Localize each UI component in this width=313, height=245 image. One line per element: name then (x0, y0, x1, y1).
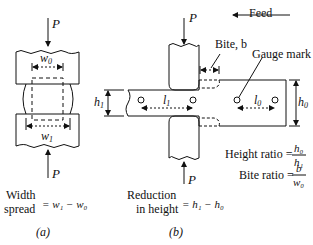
l1-label: l1 (163, 93, 170, 108)
reduction-caption-2: in height (136, 202, 179, 216)
bite-dashed-bottom (199, 118, 219, 126)
reduction-formula: = h₁ − h₀ (182, 198, 224, 210)
panel-b-label: (b) (169, 225, 183, 239)
bite-dashed-top (199, 80, 219, 88)
force-label-top: P (51, 16, 60, 31)
force-label-bottom: P (51, 166, 60, 181)
width-spread-formula: = w₁ − w₀ (42, 198, 88, 210)
bulge-left (23, 84, 26, 114)
bulge-right (70, 84, 73, 114)
gauge-mark-icon (234, 97, 240, 103)
height-ratio-label: Height ratio = (225, 147, 293, 161)
bite-ratio-label: Bite ratio = (239, 168, 294, 182)
force-label-bottom: P (187, 172, 196, 187)
bite-ratio-denominator: w₀ (293, 176, 304, 188)
gauge-mark-icon (272, 97, 278, 103)
reduction-caption-1: Reduction (127, 188, 176, 202)
gauge-mark-leader (239, 58, 262, 97)
gauge-mark-icon (190, 97, 196, 103)
bite-label: Bite, b (215, 37, 247, 51)
width-spread-caption-2: spread (4, 202, 35, 216)
top-die (169, 44, 199, 91)
feed-label: Feed (249, 6, 272, 20)
h1-label: h1 (94, 95, 104, 110)
forging-diagram: P w0 w1 P Width spread = w₁ − w₀ (a) (0, 0, 313, 245)
panel-a-label: (a) (36, 225, 50, 239)
workpiece-break (126, 90, 130, 116)
l0-label: l0 (254, 93, 261, 108)
panel-a (16, 18, 79, 178)
width-spread-caption-1: Width (6, 188, 36, 202)
gauge-mark-label: Gauge mark (252, 47, 311, 61)
force-label-top: P (188, 10, 197, 25)
height-ratio-numerator: h₀ (294, 142, 304, 154)
gauge-mark-icon (138, 97, 144, 103)
bite-ratio-numerator: b (296, 162, 302, 174)
h0-label: h0 (298, 95, 308, 110)
w1-label: w1 (41, 129, 53, 144)
bite-leader (211, 54, 220, 68)
workpiece (128, 80, 286, 126)
bottom-die (169, 116, 199, 160)
